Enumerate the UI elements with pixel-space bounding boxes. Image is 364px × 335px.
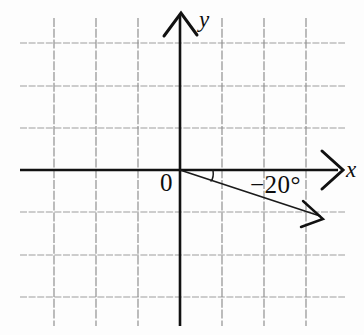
x-axis-label: x (346, 158, 356, 181)
angle-measure-label: −20° (250, 172, 301, 197)
origin-label: 0 (160, 170, 173, 195)
angle-arc-path (211, 170, 213, 181)
angle-arc-mark (211, 170, 213, 181)
y-axis-label: y (199, 8, 209, 31)
coordinate-plane-svg (0, 0, 364, 335)
angle-diagram-figure: y x 0 −20° (0, 0, 364, 335)
